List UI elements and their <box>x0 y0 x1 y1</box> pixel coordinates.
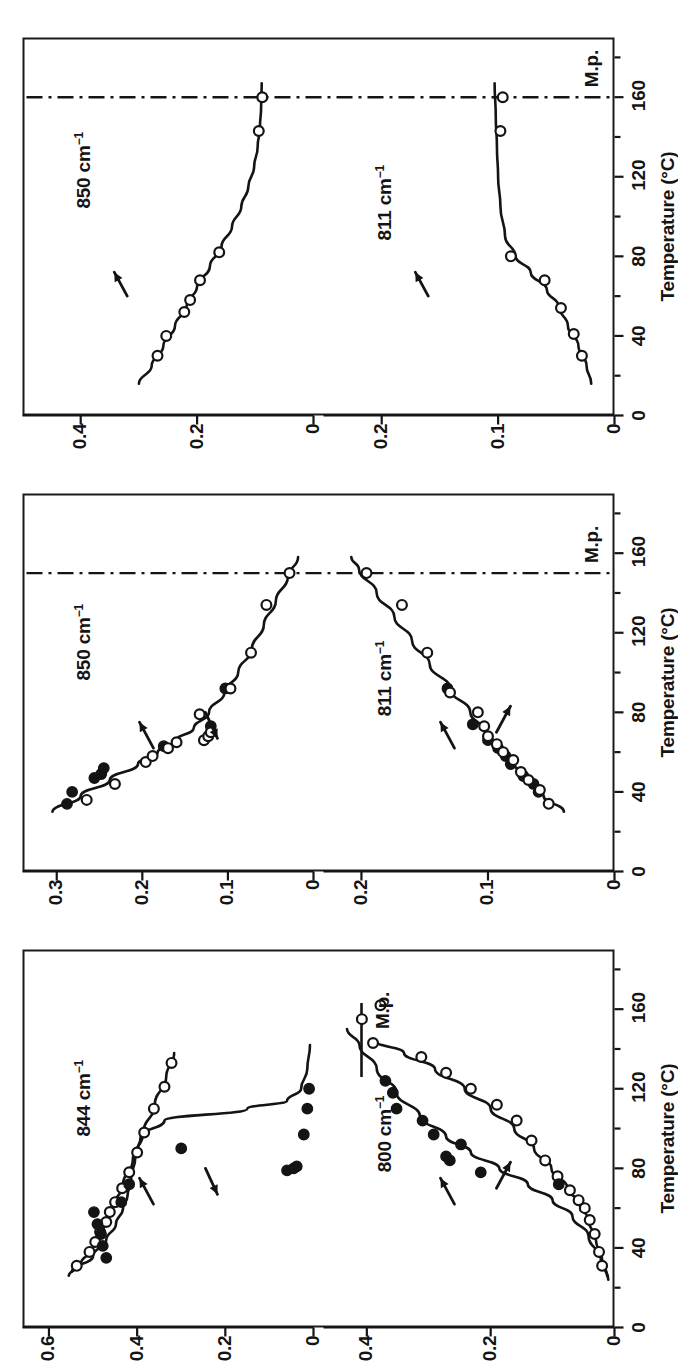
top-811-marker-open <box>495 126 505 136</box>
panel-top-plot-svg <box>0 0 634 455</box>
mid-850-marker-open <box>110 779 120 789</box>
bot-844-marker-open <box>159 1081 169 1091</box>
panel-middle-stage: 04080120160Temperature (°C)0.30.20.10850… <box>0 456 634 911</box>
panel-top-xaxis-title: Temperature (°C) <box>656 131 678 321</box>
bot-844-marker-filled <box>92 1218 102 1228</box>
bot-800-marker-open <box>526 1135 536 1145</box>
mid-811-marker-open <box>397 600 407 610</box>
bot-800-marker-open <box>465 1083 475 1093</box>
panel-top-mp-label: M.p. <box>580 49 602 86</box>
bot-844-marker-filled <box>176 1143 186 1153</box>
bot-800-marker-filled <box>417 1115 427 1125</box>
top-850-marker-open <box>257 92 267 102</box>
mid-811-arrow-cooling <box>496 706 510 732</box>
top-811-arrow-heating <box>415 272 428 296</box>
bot-844-marker-open <box>71 1260 81 1270</box>
bot-844-marker-filled <box>303 1083 313 1093</box>
bot-844-marker-filled <box>124 1179 134 1189</box>
mid-850-marker-filled <box>66 786 76 796</box>
mid-850-marker-open <box>246 647 256 657</box>
panel-middle-xtick-label-80: 80 <box>627 698 649 726</box>
bot-800-band-label: 800 cm−1 <box>372 1095 395 1172</box>
mid-850-marker-open <box>261 600 271 610</box>
bot-844-marker-open <box>139 1127 149 1137</box>
bot-844-marker-open <box>148 1103 158 1113</box>
panel-top: 04080120160Temperature (°C)0.40.20850 cm… <box>0 0 634 455</box>
panel-bottom-plot-svg <box>0 912 634 1367</box>
panel-middle: 04080120160Temperature (°C)0.30.20.10850… <box>0 456 634 911</box>
panel-top-xtick-label-120: 120 <box>627 162 649 190</box>
mid-850-marker-open <box>194 709 204 719</box>
panel-bottom-xaxis-title: Temperature (°C) <box>656 1043 678 1233</box>
bot-800-marker-open <box>441 1067 451 1077</box>
top-850-marker-open <box>152 350 162 360</box>
top-811-marker-open <box>556 303 566 313</box>
top-850-marker-open <box>161 331 171 341</box>
panel-middle-mp-label: M.p. <box>580 525 602 562</box>
bot-800-marker-filled <box>440 1151 450 1161</box>
panel-middle-xtick-label-120: 120 <box>627 618 649 646</box>
mid-811-arrow-heating <box>440 722 454 748</box>
mid-811-marker-open <box>445 687 455 697</box>
top-811-marker-open <box>577 350 587 360</box>
panel-bottom-xtick-label-120: 120 <box>627 1074 649 1102</box>
mid-850-marker-open <box>147 751 157 761</box>
mid-850-marker-open <box>81 794 91 804</box>
panel-top-stage: 04080120160Temperature (°C)0.40.20850 cm… <box>0 0 634 455</box>
mid-811-marker-open <box>534 785 544 795</box>
bot-844-marker-filled <box>291 1161 301 1171</box>
top-811-marker-open <box>568 329 578 339</box>
bot-844-marker-open <box>84 1247 94 1257</box>
panel-bottom-stage: 04080120160Temperature (°C)0.60.40.20844… <box>0 912 634 1367</box>
bot-800-ytick-label-0: 0.4 <box>354 1335 376 1370</box>
top-850-band-label-superscript: −1 <box>71 132 85 145</box>
bot-800-marker-filled <box>380 1075 390 1085</box>
bot-844-marker-filled <box>302 1103 312 1113</box>
panel-bottom-xtick-label-40: 40 <box>627 1233 649 1261</box>
bot-844-ytick-label-2: 0.2 <box>213 1335 235 1370</box>
mid-850-marker-open <box>284 568 294 578</box>
mid-811-marker-open <box>491 739 501 749</box>
mid-811-marker-open <box>515 767 525 777</box>
panel-bottom-mp-label: M.p. <box>371 991 393 1028</box>
panel-bottom: 04080120160Temperature (°C)0.60.40.20844… <box>0 912 634 1367</box>
bot-844-marker-filled <box>101 1252 111 1262</box>
bot-800-marker-open <box>594 1247 604 1257</box>
mid-850-marker-open <box>171 737 181 747</box>
bot-844-arrow-cooling <box>205 1168 217 1194</box>
bot-844-marker-filled <box>116 1196 126 1206</box>
bot-800-marker-filled <box>428 1129 438 1139</box>
mid-850-marker-open <box>225 683 235 693</box>
bot-844-marker-open <box>104 1207 114 1217</box>
top-811-marker-open <box>506 251 516 261</box>
top-850-marker-open <box>253 126 263 136</box>
bot-844-marker-filled <box>88 1206 98 1216</box>
bot-800-marker-open <box>597 1260 607 1270</box>
bot-800-ytick-label-1: 0.2 <box>478 1335 500 1370</box>
top-811-band-label: 811 cm−1 <box>372 164 395 240</box>
bot-800-arrow-heating <box>440 1178 454 1204</box>
mid-811-marker-open <box>422 647 432 657</box>
bot-800-curve-heating <box>375 1041 607 1276</box>
bot-844-marker-open <box>166 1058 176 1068</box>
mid-811-marker-open <box>472 707 482 717</box>
panel-top-xtick-label-160: 160 <box>627 83 649 111</box>
panel-middle-xtick-label-40: 40 <box>627 777 649 805</box>
bot-800-band-label-superscript: −1 <box>372 1095 386 1108</box>
bot-800-marker-open <box>368 1038 378 1048</box>
bot-844-marker-open <box>124 1167 134 1177</box>
top-811-marker-open <box>497 92 507 102</box>
mid-811-marker-open <box>479 721 489 731</box>
mid-850-marker-filled <box>98 762 108 772</box>
bot-800-marker-open <box>356 1014 366 1024</box>
mid-811-marker-filled <box>467 719 477 729</box>
top-850-marker-open <box>185 295 195 305</box>
bot-800-marker-open <box>416 1052 426 1062</box>
mid-811-band-label: 811 cm−1 <box>372 640 395 716</box>
mid-850-band-label-superscript: −1 <box>71 603 85 616</box>
bot-800-marker-open <box>573 1195 583 1205</box>
panel-bottom-xtick-label-0: 0 <box>627 1313 649 1341</box>
top-811-marker-open <box>539 275 549 285</box>
bot-844-marker-filled <box>298 1129 308 1139</box>
